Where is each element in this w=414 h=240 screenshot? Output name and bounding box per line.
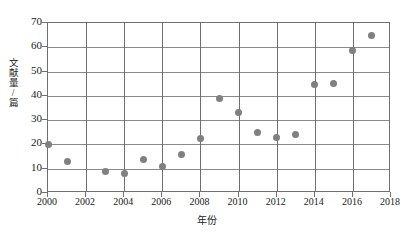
x-axis-tick-label: 2006 [141, 196, 181, 207]
data-point [140, 156, 147, 163]
x-axis-tick-mark [47, 192, 48, 197]
plot-area [47, 22, 390, 192]
data-point [311, 81, 318, 88]
y-axis-tick-label: 40 [8, 89, 42, 100]
data-point [349, 47, 356, 54]
data-point [102, 168, 109, 175]
data-point [254, 129, 261, 136]
x-axis-title: 年份 [0, 212, 414, 227]
data-point [368, 32, 375, 39]
x-axis-tick-label: 2012 [256, 196, 296, 207]
x-axis-tick-mark [276, 192, 277, 197]
y-axis-tick-label: 30 [8, 113, 42, 124]
x-axis-tick-mark [238, 192, 239, 197]
x-axis-tick-mark [199, 192, 200, 197]
data-point [159, 163, 166, 170]
data-point [121, 170, 128, 177]
x-axis-tick-mark [352, 192, 353, 197]
x-axis-tick-label: 2014 [294, 196, 334, 207]
data-point [45, 141, 52, 148]
x-axis-tick-mark [314, 192, 315, 197]
data-point [197, 135, 204, 142]
scatter-chart: 文献量/篇 010203040506070 200020022004200620… [0, 0, 414, 240]
data-point [216, 95, 223, 102]
data-point [235, 109, 242, 116]
gridline-horizontal [48, 169, 389, 170]
x-axis-tick-label: 2000 [27, 196, 67, 207]
x-axis-tick-label: 2004 [103, 196, 143, 207]
y-axis-tick-label: 70 [8, 16, 42, 27]
gridline-horizontal [48, 120, 389, 121]
gridline-vertical [200, 23, 201, 191]
x-axis-tick-label: 2018 [370, 196, 410, 207]
x-axis-tick-label: 2002 [65, 196, 105, 207]
gridline-vertical [239, 23, 240, 191]
y-axis-tick-label: 10 [8, 162, 42, 173]
x-axis-tick-label: 2016 [332, 196, 372, 207]
data-point [292, 131, 299, 138]
gridline-horizontal [48, 144, 389, 145]
y-axis-tick-label: 20 [8, 137, 42, 148]
gridline-vertical [277, 23, 278, 191]
x-axis-tick-mark [123, 192, 124, 197]
x-axis-tick-label: 2008 [179, 196, 219, 207]
gridline-vertical [315, 23, 316, 191]
gridline-horizontal [48, 72, 389, 73]
x-axis-tick-mark [161, 192, 162, 197]
y-axis-tick-label: 60 [8, 40, 42, 51]
data-point [273, 134, 280, 141]
data-point [330, 80, 337, 87]
data-point [178, 151, 185, 158]
gridline-horizontal [48, 47, 389, 48]
gridline-vertical [124, 23, 125, 191]
gridline-vertical [86, 23, 87, 191]
x-axis-tick-label: 2010 [218, 196, 258, 207]
x-axis-tick-mark [85, 192, 86, 197]
x-axis-tick-mark [390, 192, 391, 197]
data-point [64, 158, 71, 165]
y-axis-tick-label: 50 [8, 65, 42, 76]
